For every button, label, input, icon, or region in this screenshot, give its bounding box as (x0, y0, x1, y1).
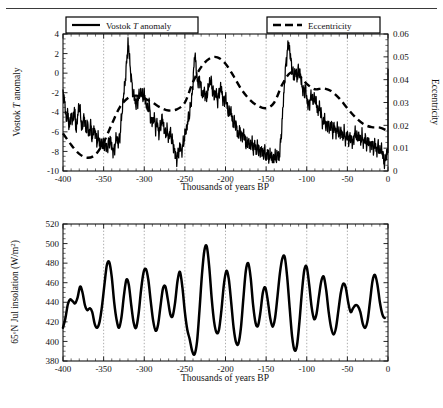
bottom-chart-ytick-label: 440 (46, 297, 60, 307)
top-chart-xtick-label: -350 (95, 174, 112, 184)
top-chart-xtick-label: 0 (386, 174, 391, 184)
top-chart-y2tick-label: 0.03 (393, 98, 409, 108)
series-insolation (63, 245, 385, 354)
chart-insolation: -400-350-300-250-200-150-100-50038040042… (9, 219, 391, 383)
climate-figure: -400-350-300-250-200-150-100-500-10-8-6-… (0, 0, 443, 408)
top-chart-y2tick-label: 0.04 (393, 75, 409, 85)
top-chart-ytick-label: -10 (47, 166, 59, 176)
top-chart-ytick-label: -2 (52, 88, 60, 98)
bottom-chart-ytick-label: 520 (46, 219, 60, 229)
figure-page: -400-350-300-250-200-150-100-500-10-8-6-… (0, 0, 443, 408)
bottom-chart-ytick-label: 480 (46, 258, 60, 268)
bottom-chart-ytick-label: 380 (46, 356, 60, 366)
top-chart-ytick-label: 4 (55, 29, 60, 39)
legend-vostok-label: Vostok T anomaly (106, 21, 172, 31)
bottom-chart-xtick-label: -300 (136, 364, 153, 374)
top-chart-y2tick-label: 0.05 (393, 52, 409, 62)
top-chart-xlabel: Thousands of years BP (181, 182, 269, 192)
top-chart-ytick-label: 2 (55, 49, 60, 59)
bottom-chart-ytick-label: 420 (46, 317, 60, 327)
top-chart-y2tick-label: 0 (393, 166, 398, 176)
bottom-chart-ytick-label: 460 (46, 278, 60, 288)
bottom-chart-xtick-label: 0 (386, 364, 391, 374)
top-chart-xtick-label: -300 (136, 174, 153, 184)
top-chart-ytick-label: -4 (52, 107, 60, 117)
top-chart-ylabel-right: Eccentricity (430, 79, 440, 125)
bottom-chart-xtick-label: -100 (299, 364, 316, 374)
bottom-chart-ytick-label: 500 (46, 239, 60, 249)
top-chart-ytick-label: 0 (55, 68, 60, 78)
top-chart-y2tick-label: 0.01 (393, 143, 409, 153)
legend-eccentricity: Eccentricity (267, 17, 380, 33)
top-chart-ylabel: Vostok T anomaly (12, 67, 22, 136)
bottom-chart-ylabel: 65°N Jul insolation (W/m2) (9, 240, 21, 344)
top-chart-y2tick-label: 0.02 (393, 121, 409, 131)
bottom-chart-tick-labels: -400-350-300-250-200-150-100-50038040042… (46, 219, 391, 374)
top-chart-y2tick-label: 0.06 (393, 29, 409, 39)
bottom-chart-xtick-label: -350 (95, 364, 112, 374)
bottom-chart-xtick-label: -50 (341, 364, 353, 374)
top-chart-xtick-label: -50 (341, 174, 353, 184)
legend-vostok: Vostok T anomaly (66, 17, 198, 33)
bottom-chart-xlabel: Thousands of years BP (181, 373, 269, 383)
chart-vostok-eccentricity: -400-350-300-250-200-150-100-500-10-8-6-… (12, 17, 440, 192)
legend-eccentricity-label: Eccentricity (308, 21, 352, 31)
bottom-chart-ytick-label: 400 (46, 337, 60, 347)
bottom-chart-series (63, 245, 385, 354)
top-chart-ytick-label: -8 (52, 147, 60, 157)
top-chart-ytick-label: -6 (52, 127, 60, 137)
top-chart-xtick-label: -100 (299, 174, 316, 184)
